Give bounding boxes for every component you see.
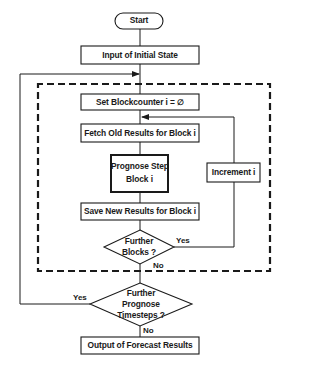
output-label: Output of Forecast Results [81,341,199,349]
increment-label: Increment i [207,168,260,176]
fetch-label: Fetch Old Results for Block i [81,129,199,137]
input-label: Input of Initial State [81,51,199,59]
save-label: Save New Results for Block i [81,207,199,215]
set-counter-label: Set Blockcounter i = ∅ [81,98,199,106]
further-timesteps-line1: Further [90,289,192,297]
start-label: Start [115,16,163,24]
further-timesteps-line3: Timesteps ? [90,311,192,319]
prognose-label-line2: Block i [111,175,168,183]
timesteps-no-label: No [143,327,154,335]
blocks-no-label: No [153,262,164,270]
further-blocks-line1: Further [104,237,174,245]
timesteps-yes-label: Yes [73,294,87,302]
further-timesteps-line2: Prognose [90,300,192,308]
further-blocks-line2: Blocks ? [104,248,174,256]
prognose-label-line1: Prognose Step [111,162,168,170]
blocks-yes-label: Yes [176,237,190,245]
